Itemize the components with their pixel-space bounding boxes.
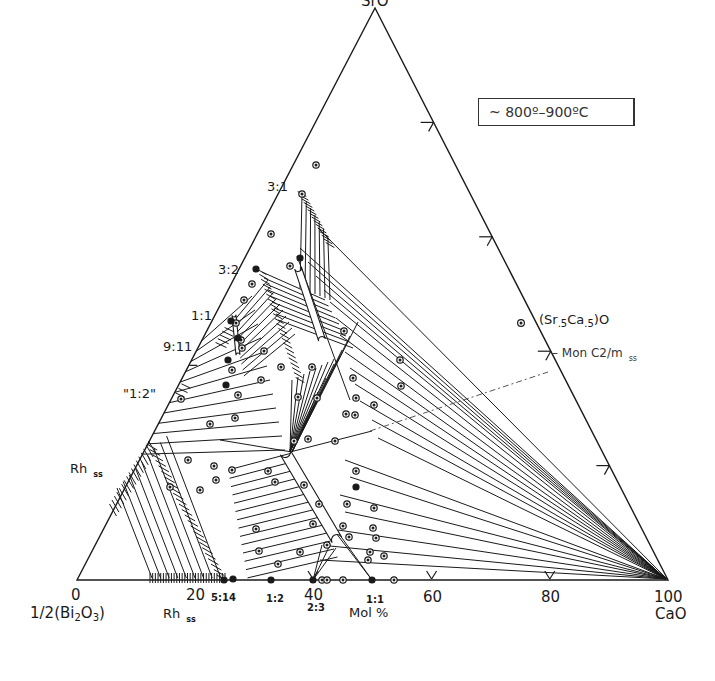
triangle-outline — [77, 8, 668, 580]
rh-ss-base-label: Rhss — [163, 607, 196, 624]
axis-unit-label: Mol % — [349, 606, 388, 619]
corner-left-name: 1/2(Bi2O3) — [30, 606, 105, 623]
corner-right-name: CaO — [655, 607, 686, 622]
corner-left-value: 0 — [71, 588, 81, 603]
rh-ss-base-main: Rh — [163, 606, 180, 621]
ratio-1-1-base-label: 1:1 — [366, 595, 384, 605]
apex-sro-label: SrO — [361, 0, 389, 9]
ratio-3-2-label: 3:2 — [218, 263, 239, 276]
ratio-3-1-label: 3:1 — [267, 180, 288, 193]
corner-right-value: 100 — [654, 590, 683, 605]
ratio-5-14-label: 5:14 — [211, 593, 236, 603]
rh-ss-base-sub: ss — [186, 615, 196, 624]
ratio-9-11-label: 9:11 — [163, 340, 192, 353]
temperature-label: ~ 800º–900ºC — [489, 104, 589, 120]
ratio-1-1-label: 1:1 — [191, 309, 212, 322]
sr-ca-oxide-label: (Sr.5Ca.5)O — [539, 313, 609, 329]
mon-dashed-line — [370, 372, 548, 431]
tie-lines — [117, 194, 668, 580]
tick-label-80: 80 — [541, 590, 560, 605]
tick-label-40: 40 — [304, 588, 323, 603]
tick-label-20: 20 — [186, 588, 205, 603]
data-points — [167, 162, 525, 583]
ratio-2-3-label: 2:3 — [307, 603, 325, 613]
tick-label-60: 60 — [423, 590, 442, 605]
temperature-box: ~ 800º–900ºC — [478, 98, 635, 126]
rh-ss-left-sub: ss — [93, 470, 103, 479]
rh-ss-left-label: Rhss — [70, 462, 103, 479]
mon-dash: – — [552, 346, 562, 360]
ratio-1-2-base-label: 1:2 — [266, 594, 284, 604]
ratio-1-2-quoted-label: "1:2" — [123, 387, 156, 400]
mon-c2m-label: – Mon C2/mss — [552, 347, 637, 363]
rh-ss-left-main: Rh — [70, 461, 87, 476]
